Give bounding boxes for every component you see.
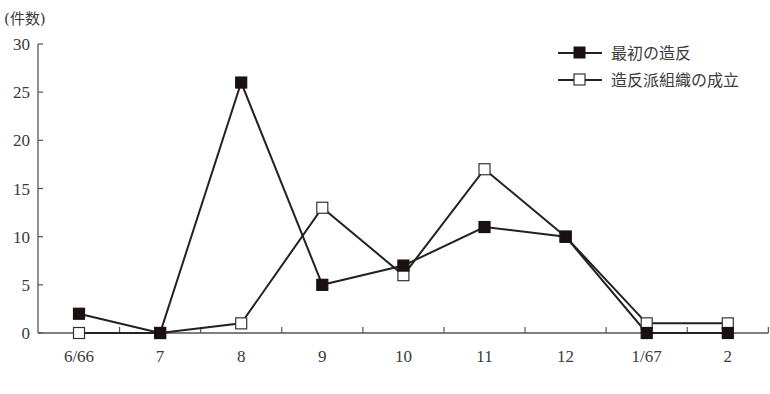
data-point-series-0-12 [560,231,571,242]
data-point-series-0-1/67 [641,328,652,339]
data-point-series-0-8 [236,77,247,88]
data-point-series-1-9 [317,202,328,213]
x-tick-label: 7 [156,347,165,366]
legend-marker-filled-square [574,47,585,58]
data-point-series-1-6/66 [74,328,85,339]
line-chart: (件数) 051015202530 6/667891011121/672 最初の… [0,0,770,394]
legend: 最初の造反 造反派組織の成立 [558,44,739,90]
data-point-series-0-2 [722,328,733,339]
series-line-0 [79,83,728,333]
x-tick-label: 12 [557,347,574,366]
y-tick-label: 0 [22,324,31,343]
legend-label-series-0: 最初の造反 [611,44,691,63]
series-line-1 [79,169,728,333]
y-axis-unit-label: (件数) [4,10,46,28]
x-tick-label: 10 [395,347,412,366]
data-point-series-0-9 [317,279,328,290]
x-tick-label: 8 [237,347,246,366]
series-lines [79,83,728,333]
y-tick-label: 15 [13,180,30,199]
x-tick-label: 9 [318,347,327,366]
x-tick-label: 1/67 [632,347,663,366]
legend-label-series-1: 造反派組織の成立 [611,71,739,90]
y-tick-label: 25 [13,83,30,102]
data-point-series-1-11 [479,164,490,175]
data-point-series-1-8 [236,318,247,329]
data-point-series-0-10 [398,260,409,271]
y-tick-label: 10 [13,228,30,247]
y-tick-label: 30 [13,35,30,54]
x-tick-label: 6/66 [64,347,94,366]
x-tick-label: 11 [476,347,492,366]
x-tick-label: 2 [724,347,733,366]
y-tick-label: 5 [22,276,31,295]
series-markers [74,77,734,338]
data-point-series-0-11 [479,222,490,233]
data-point-series-0-7 [155,328,166,339]
y-tick-label: 20 [13,131,30,150]
data-point-series-0-6/66 [74,308,85,319]
legend-marker-open-square [574,74,585,85]
